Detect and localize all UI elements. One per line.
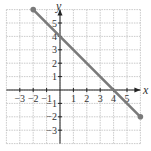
y-tick-label: 3 xyxy=(52,44,57,55)
endpoint-dot xyxy=(138,114,144,120)
x-tick-label: 3 xyxy=(98,93,103,104)
x-tick-label: −3 xyxy=(14,93,25,104)
grid xyxy=(6,10,140,144)
x-axis-arrow-icon xyxy=(134,88,140,93)
y-axis-label: y xyxy=(55,0,62,13)
y-tick-label: −2 xyxy=(46,111,57,122)
y-tick-label: 2 xyxy=(52,58,57,69)
x-axis-label: x xyxy=(142,83,149,97)
y-tick-label: 1 xyxy=(52,71,57,82)
x-tick-label: −2 xyxy=(28,93,39,104)
x-tick-label: 2 xyxy=(84,93,89,104)
y-tick-label: −1 xyxy=(46,98,57,109)
y-tick-label: 5 xyxy=(52,18,57,29)
x-tick-label: 1 xyxy=(71,93,76,104)
endpoint-dot xyxy=(30,7,36,13)
y-tick-label: −3 xyxy=(46,125,57,136)
chart: −3−2−112345−3−2−112345 x y xyxy=(0,0,151,151)
x-tick-label: 4 xyxy=(111,93,116,104)
